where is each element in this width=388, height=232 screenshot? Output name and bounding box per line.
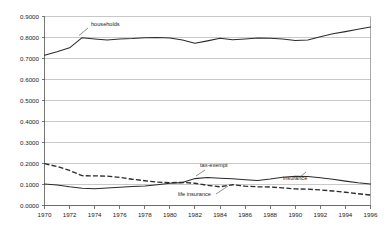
- y-tick-label-1: 0.1000: [20, 181, 39, 188]
- x-tick-label-0: 1970: [38, 211, 52, 218]
- annotation-life-insurance: life insurance: [178, 191, 211, 197]
- annotation-households: households: [91, 21, 120, 27]
- y-tick-label-3: 0.3000: [20, 139, 39, 146]
- x-tick-label-2: 1974: [88, 211, 102, 218]
- x-tick-label-4: 1978: [138, 211, 152, 218]
- y-tick-label-6: 0.6000: [20, 76, 39, 83]
- x-tick-label-9: 1988: [263, 211, 277, 218]
- y-tick-label-5: 0.5000: [20, 97, 39, 104]
- x-tick-label-11: 1992: [313, 211, 327, 218]
- y-tick-label-7: 0.7000: [20, 55, 39, 62]
- x-tick-label-8: 1986: [238, 211, 252, 218]
- x-tick-label-6: 1982: [188, 211, 202, 218]
- x-tick-label-5: 1980: [163, 211, 177, 218]
- y-tick-label-8: 0.8000: [20, 34, 39, 41]
- y-tick-label-2: 0.2000: [20, 160, 39, 167]
- x-tick-label-7: 1984: [213, 211, 227, 218]
- y-tick-label-4: 0.4000: [20, 118, 39, 125]
- x-tick-label-3: 1976: [113, 211, 127, 218]
- chart-container: 0.00000.10000.20000.30000.40000.50000.60…: [0, 0, 388, 232]
- annotation-tax-exempt: tax-exempt: [200, 162, 228, 168]
- y-tick-label-9: 0.9000: [20, 13, 39, 20]
- line-chart: 0.00000.10000.20000.30000.40000.50000.60…: [0, 0, 388, 232]
- y-tick-label-0: 0.0000: [20, 202, 39, 209]
- x-tick-label-1: 1972: [63, 211, 77, 218]
- annotation-insurance: insurance: [283, 175, 307, 181]
- x-tick-label-12: 1994: [339, 211, 353, 218]
- x-tick-label-13: 1996: [364, 211, 378, 218]
- x-tick-label-10: 1990: [288, 211, 302, 218]
